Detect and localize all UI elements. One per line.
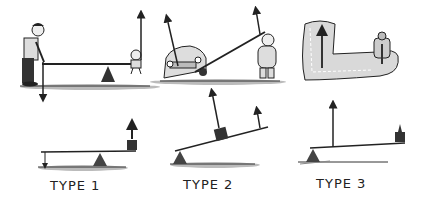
load-block-icon [214,127,229,142]
fulcrum-icon [306,149,320,162]
fulcrum-icon [101,66,115,82]
type1-schematic [38,124,137,171]
load-block-icon [127,140,137,150]
type2-illustration [150,10,286,85]
load-arrow-icon [212,92,219,128]
type2-label: TYPE 2 [183,177,233,192]
effort-arrow-icon [256,10,260,34]
load-block-icon [395,132,405,142]
worker-figure [258,34,276,78]
fulcrum-icon [93,153,107,166]
type1-label: TYPE 1 [50,178,100,193]
fulcrum-icon [173,151,187,164]
type1-illustration [20,14,160,98]
type3-illustration [303,21,399,80]
type3-label: TYPE 3 [316,176,366,191]
child-figure [131,50,141,74]
lever-beam [310,143,405,148]
adult-figure [22,23,44,87]
type3-schematic [298,104,405,164]
ground-shadow [20,84,160,90]
lever-bar [195,32,265,72]
effort-arrow-icon [257,110,260,128]
lever-beam [41,151,136,152]
car-figure [164,46,207,78]
type2-schematic [170,92,268,168]
